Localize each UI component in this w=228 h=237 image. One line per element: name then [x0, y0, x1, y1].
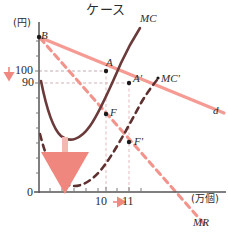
- point-dot-F-prime: [127, 140, 131, 144]
- point-label-F-prime: F': [134, 136, 143, 147]
- point-label-B: B: [41, 30, 48, 41]
- x-axis-unit-label: (万個): [191, 194, 219, 204]
- point-label-A-prime: A': [133, 73, 142, 84]
- curve-label-mc: MC: [140, 13, 157, 24]
- curve-label-mr: MR: [193, 217, 209, 228]
- point-dot-A: [104, 69, 108, 73]
- x-tick-label-11: 11: [122, 195, 134, 207]
- origin-label: 0: [27, 186, 33, 198]
- curve-label-d: d: [213, 105, 219, 116]
- point-dot-mc-prime-marker: [156, 76, 159, 79]
- chart-title: ケース: [86, 3, 126, 16]
- curve-label-mc-prime: MC': [161, 73, 180, 84]
- point-dot-F: [104, 112, 108, 116]
- demand-curve-d: [39, 37, 224, 113]
- economics-diagram: ケース (円) (万個) 0 100 90 10 11 MC MC' d MR …: [0, 0, 228, 237]
- point-dot-A-prime: [127, 81, 131, 85]
- y-axis-unit-label: (円): [13, 18, 31, 28]
- y-tick-label-90: 90: [22, 76, 34, 88]
- point-label-A: A: [106, 57, 113, 68]
- point-label-F: F: [110, 107, 117, 118]
- x-tick-label-10: 10: [95, 195, 107, 207]
